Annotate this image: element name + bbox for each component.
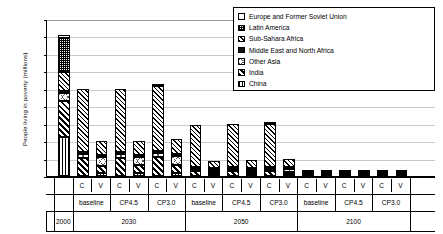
axis-separator [410,177,411,231]
legend-label: Sub-Sahara Africa [249,35,303,42]
axis-rule [46,194,435,195]
axis-separator [204,179,205,192]
legend-label: China [249,80,266,87]
legend-label: Other Asia [249,58,280,65]
bar [264,122,276,177]
x-measure-label: C [297,177,316,194]
bar-segment [152,157,164,176]
legend-swatch [238,36,245,42]
legend-item: China [238,78,430,89]
bar-segment [208,161,220,168]
legend-label: India [249,69,264,76]
bar-segment [133,157,145,165]
axis-separator [185,177,186,231]
legend-label: Latin America [249,24,290,31]
bar [152,84,164,176]
bar-segment [58,137,70,176]
x-measure-label: C [222,177,241,194]
x-measure-label: C [73,177,92,194]
bar-segment [190,125,202,167]
legend-swatch [238,81,245,87]
x-axis: CVCVCVCVCVCVCVCVCV baselineCP4.5CP3.0bas… [46,177,435,234]
axis-separator [148,194,149,211]
x-measure-label: V [166,177,185,194]
bar-segment [246,174,258,176]
axis-separator [335,177,336,194]
bar [321,171,333,176]
bar-segment [171,173,183,176]
x-measure-label: V [241,177,260,194]
axis-separator [260,194,261,211]
bar [396,171,408,176]
axis-separator [148,177,149,194]
legend-item: Latin America [238,22,430,33]
axis-separator [222,177,223,194]
x-year-label: 2030 [73,211,185,231]
axis-separator [46,211,47,231]
bar-segment [58,101,70,137]
x-axis-scenario-row: baselineCP4.5CP3.0baselineCP4.5CP3.0base… [46,194,435,211]
legend-item: India [238,67,430,78]
axis-rule [46,211,435,212]
bar-segment [321,174,333,176]
x-scenario-label: baseline [185,194,222,211]
axis-separator [279,179,280,192]
bar-segment [96,166,108,174]
axis-separator [391,179,392,192]
bar-segment [58,38,70,72]
bar-segment [171,139,183,154]
x-scenario-label: baseline [297,194,334,211]
bar-segment [302,174,314,176]
bar-segment [227,124,239,167]
legend-item: Europe and Former Soviet Union [238,11,430,22]
bar-segment [96,157,108,165]
bar-segment [133,173,145,176]
bar-segment [77,158,89,176]
x-measure-label: V [391,177,410,194]
x-measure-label: V [279,177,298,194]
x-measure-label: C [110,177,129,194]
bar-segment [208,174,220,176]
axis-separator [110,194,111,211]
bar-segment [283,159,295,167]
x-measure-label: V [129,177,148,194]
legend: Europe and Former Soviet UnionLatin Amer… [233,7,435,91]
bar-segment [171,165,183,173]
legend-label: Europe and Former Soviet Union [249,13,347,20]
bar [339,175,351,176]
x-year-label: 2050 [185,211,297,231]
bar [171,139,183,176]
axis-separator [354,179,355,192]
y-axis-title: People living in poverty (millions) [21,20,28,180]
bar-segment [58,72,70,91]
bar [133,141,145,176]
bar-segment [190,171,202,176]
x-measure-label: C [260,177,279,194]
x-scenario-label: CP3.0 [260,194,297,211]
bar [77,89,89,176]
legend-item: Other Asia [238,56,430,67]
bar [190,125,202,176]
bar-segment [115,89,127,152]
axis-separator [372,177,373,194]
legend-swatch [238,58,245,64]
x-scenario-label: baseline [73,194,110,211]
x-measure-label: C [335,177,354,194]
bar [227,124,239,176]
poverty-stacked-bar-chart: People living in poverty (millions) 0200… [0,0,443,234]
bar [377,175,389,176]
axis-separator [129,179,130,192]
bar-segment [339,174,351,176]
bar-segment [115,158,127,176]
axis-separator [297,177,298,231]
bar-segment [96,173,108,176]
legend-swatch [238,69,245,75]
x-year-label: 2000 [54,211,73,231]
x-scenario-label: CP3.0 [372,194,409,211]
bar-segment [358,174,370,176]
bar-segment [227,171,239,176]
axis-separator [372,194,373,211]
bar-segment [246,160,258,167]
bar-segment [264,171,276,177]
x-measure-label: C [185,177,204,194]
